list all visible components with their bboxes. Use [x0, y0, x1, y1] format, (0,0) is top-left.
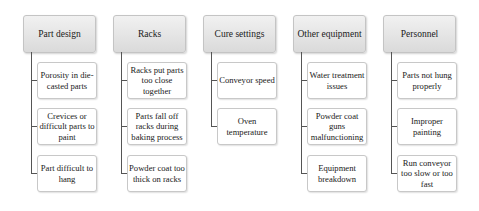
cause-box: Run conveyor too slow or too fast	[397, 155, 457, 192]
connector-line	[31, 52, 32, 174]
connector-line	[121, 52, 122, 174]
cause-box: Equipment breakdown	[307, 155, 367, 192]
category-header: Cure settings	[203, 15, 276, 53]
cause-box: Powder coat guns malfunctioning	[307, 108, 367, 145]
category-cure-settings: Cure settings Conveyor speed Oven temper…	[203, 15, 276, 205]
connector-line	[211, 52, 212, 127]
category-header: Other equipment	[293, 15, 366, 53]
cause-box: Parts fall off racks during baking proce…	[127, 108, 187, 145]
cause-box: Water treatment issues	[307, 62, 367, 99]
cause-box: Porosity in die-casted parts	[37, 62, 97, 99]
category-other-equipment: Other equipment Water treatment issues P…	[293, 15, 366, 205]
category-header: Racks	[113, 15, 186, 53]
category-part-design: Part design Porosity in die-casted parts…	[23, 15, 96, 205]
connector-line	[391, 52, 392, 174]
cause-box: Improper painting	[397, 108, 457, 145]
cause-box: Conveyor speed	[217, 62, 277, 99]
cause-box: Racks put parts too close together	[127, 62, 187, 99]
category-racks: Racks Racks put parts too close together…	[113, 15, 186, 205]
category-header: Personnel	[383, 15, 456, 53]
cause-box: Part difficult to hang	[37, 155, 97, 192]
cause-box: Powder coat too thick on racks	[127, 155, 187, 192]
category-header: Part design	[23, 15, 96, 53]
connector-line	[301, 52, 302, 174]
category-personnel: Personnel Parts not hung properly Improp…	[383, 15, 456, 205]
cause-box: Parts not hung properly	[397, 62, 457, 99]
cause-box: Oven temperature	[217, 108, 277, 145]
cause-box: Crevices or difficult parts to paint	[37, 108, 97, 145]
